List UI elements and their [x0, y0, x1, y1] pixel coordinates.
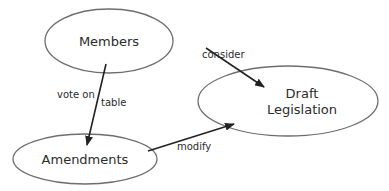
node-draft-label-line1: Draft [286, 86, 319, 101]
edge-label-vote-on: vote on [57, 89, 95, 100]
node-members: Members [45, 9, 173, 73]
node-members-label: Members [79, 34, 139, 49]
edge-label-consider: consider [202, 49, 245, 60]
node-draft-label-line2: Legislation [267, 102, 337, 117]
node-amendments: Amendments [13, 134, 157, 184]
edge-amendments-modify-draft: modify [148, 124, 234, 152]
edge-members-voteon-amendments: vote on table [57, 64, 126, 145]
edge-label-table: table [101, 97, 126, 108]
edge-members-consider-draft: consider [202, 48, 264, 87]
concept-diagram: Members Draft Legislation Amendments con… [0, 0, 389, 191]
node-amendments-label: Amendments [42, 152, 129, 167]
node-draft-legislation: Draft Legislation [198, 66, 378, 136]
edge-label-modify: modify [177, 141, 211, 152]
